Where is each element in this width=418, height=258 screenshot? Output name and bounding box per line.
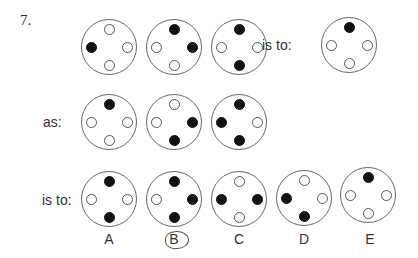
filled-dot-left-icon xyxy=(281,193,292,204)
empty-dot-right-icon xyxy=(122,117,133,128)
filled-dot-right-icon xyxy=(187,194,198,205)
empty-dot-bottom-icon xyxy=(169,60,180,71)
filled-dot-top-icon xyxy=(104,99,115,110)
filled-dot-bottom-icon xyxy=(169,135,180,146)
empty-dot-right-icon xyxy=(317,193,328,204)
row1-result-figure xyxy=(321,17,377,73)
filled-dot-top-icon xyxy=(169,24,180,35)
empty-dot-right-icon xyxy=(252,117,263,128)
option-figure-e[interactable] xyxy=(340,167,396,223)
filled-dot-top-icon xyxy=(344,22,355,33)
filled-dot-left-icon xyxy=(86,42,97,53)
empty-dot-bottom-icon xyxy=(344,58,355,69)
filled-dot-top-icon xyxy=(363,172,374,183)
row1-figure-1 xyxy=(81,19,137,75)
empty-dot-top-icon xyxy=(169,99,180,110)
empty-dot-left-icon xyxy=(216,42,227,53)
empty-dot-top-icon xyxy=(104,24,115,35)
empty-dot-bottom-icon xyxy=(363,208,374,219)
empty-dot-bottom-icon xyxy=(104,135,115,146)
filled-dot-bottom-icon xyxy=(299,211,310,222)
empty-dot-top-icon xyxy=(234,176,245,187)
empty-dot-right-icon xyxy=(252,42,263,53)
filled-dot-top-icon xyxy=(234,24,245,35)
option-label-d: D xyxy=(299,231,309,247)
answer-circle-mark xyxy=(164,230,189,250)
filled-dot-top-icon xyxy=(234,99,245,110)
question-number: 7. xyxy=(20,12,31,29)
filled-dot-right-icon xyxy=(187,117,198,128)
filled-dot-left-icon xyxy=(216,194,227,205)
filled-dot-bottom-icon xyxy=(104,212,115,223)
filled-dot-bottom-icon xyxy=(234,60,245,71)
option-figure-d[interactable] xyxy=(276,170,332,226)
filled-dot-right-icon xyxy=(187,42,198,53)
empty-dot-left-icon xyxy=(345,190,356,201)
row2-figure-1 xyxy=(81,94,137,150)
empty-dot-left-icon xyxy=(86,117,97,128)
is-to-label: is to: xyxy=(262,37,292,53)
empty-dot-right-icon xyxy=(122,42,133,53)
filled-dot-right-icon xyxy=(252,194,263,205)
empty-dot-top-icon xyxy=(299,175,310,186)
option-label-e: E xyxy=(365,231,374,247)
empty-dot-right-icon xyxy=(381,190,392,201)
is-to-label-2: is to: xyxy=(42,192,72,208)
filled-dot-bottom-icon xyxy=(169,212,180,223)
filled-dot-bottom-icon xyxy=(234,135,245,146)
option-figure-c[interactable] xyxy=(211,171,267,227)
option-label-c: C xyxy=(234,231,244,247)
as-label: as: xyxy=(43,114,62,130)
option-figure-a[interactable] xyxy=(81,171,137,227)
filled-dot-top-icon xyxy=(169,176,180,187)
row2-figure-2 xyxy=(146,94,202,150)
row2-figure-3 xyxy=(211,94,267,150)
empty-dot-left-icon xyxy=(326,40,337,51)
empty-dot-bottom-icon xyxy=(104,60,115,71)
row1-figure-2 xyxy=(146,19,202,75)
row1-figure-3 xyxy=(211,19,267,75)
empty-dot-right-icon xyxy=(122,194,133,205)
empty-dot-left-icon xyxy=(151,194,162,205)
empty-dot-right-icon xyxy=(362,40,373,51)
option-label-a: A xyxy=(104,231,113,247)
empty-dot-left-icon xyxy=(86,194,97,205)
empty-dot-bottom-icon xyxy=(234,212,245,223)
option-figure-b[interactable] xyxy=(146,171,202,227)
filled-dot-top-icon xyxy=(104,176,115,187)
filled-dot-left-icon xyxy=(216,117,227,128)
empty-dot-left-icon xyxy=(151,117,162,128)
empty-dot-left-icon xyxy=(151,42,162,53)
